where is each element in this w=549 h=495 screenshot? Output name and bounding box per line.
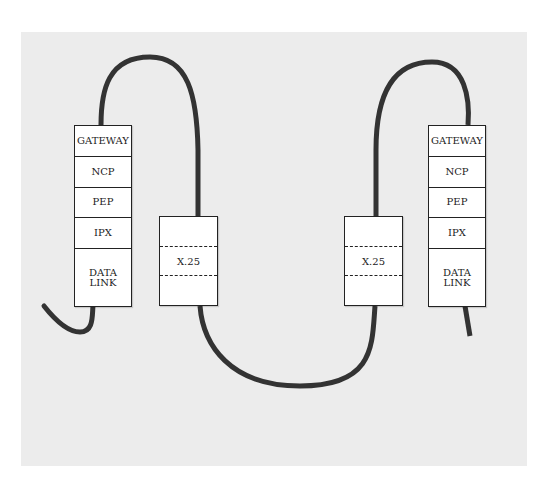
- layer-ipx: IPX: [75, 218, 131, 249]
- layer-ipx: IPX: [429, 218, 485, 249]
- layer-data-link: DATA LINK: [75, 249, 131, 307]
- layer-data-link: DATA LINK: [429, 249, 485, 307]
- layer-gateway: GATEWAY: [429, 126, 485, 157]
- x25-label: X.25: [345, 246, 402, 276]
- layer-pep: PEP: [429, 188, 485, 218]
- right-protocol-stack: GATEWAY NCP PEP IPX DATA LINK: [428, 125, 486, 307]
- left-x25-node: X.25: [159, 216, 218, 306]
- x25-label: X.25: [160, 246, 217, 276]
- layer-ncp: NCP: [429, 157, 485, 188]
- layer-pep: PEP: [75, 188, 131, 218]
- right-x25-node: X.25: [344, 216, 403, 306]
- layer-gateway: GATEWAY: [75, 126, 131, 157]
- layer-ncp: NCP: [75, 157, 131, 188]
- left-protocol-stack: GATEWAY NCP PEP IPX DATA LINK: [74, 125, 132, 307]
